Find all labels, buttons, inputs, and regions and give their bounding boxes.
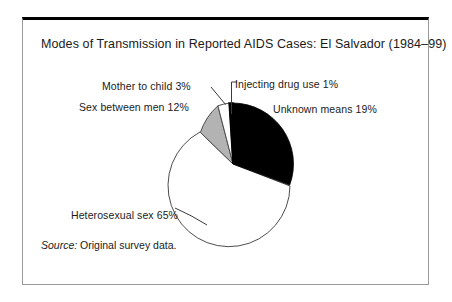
source-note: Source: Original survey data. xyxy=(41,239,176,251)
leader-line-mother-to-child xyxy=(211,87,226,105)
pie-label-sex-between-men: Sex between men 12% xyxy=(79,101,189,113)
pie-label-mother-to-child: Mother to child 3% xyxy=(102,80,191,92)
pie-label-injecting-drug-use: Injecting drug use 1% xyxy=(235,78,338,90)
source-label: Source: xyxy=(41,239,77,251)
pie-label-heterosexual-sex: Heterosexual sex 65% xyxy=(71,209,178,221)
pie-label-unknown-means: Unknown means 19% xyxy=(273,103,377,115)
source-value: Original survey data. xyxy=(80,239,176,251)
figure-frame: Modes of Transmission in Reported AIDS C… xyxy=(22,17,429,285)
